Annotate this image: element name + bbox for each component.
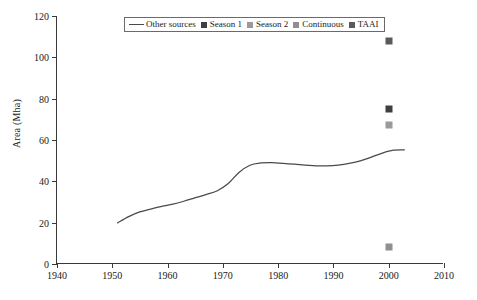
legend-entry-season-2[interactable]: Season 2 bbox=[247, 20, 288, 29]
x-tick-mark bbox=[333, 263, 334, 268]
x-tick-mark bbox=[278, 263, 279, 268]
scatter-marker-continuous bbox=[385, 244, 392, 251]
y-tick-label: 100 bbox=[34, 52, 49, 63]
legend-line-icon bbox=[129, 24, 144, 25]
line-series-other-sources bbox=[118, 150, 405, 223]
plot-area: 020406080100120 194019501960197019801990… bbox=[56, 16, 443, 264]
y-tick-label: 60 bbox=[39, 135, 49, 146]
x-tick-mark bbox=[112, 263, 113, 268]
y-tick-label: 80 bbox=[39, 93, 49, 104]
x-tick-label: 1970 bbox=[213, 270, 233, 281]
scatter-marker-taai bbox=[385, 37, 392, 44]
legend-label: Continuous bbox=[302, 20, 344, 29]
x-tick-label: 2010 bbox=[434, 270, 454, 281]
x-tick-label: 1960 bbox=[158, 270, 178, 281]
legend-label: TAAI bbox=[358, 20, 379, 29]
x-tick-mark bbox=[57, 263, 58, 268]
x-tick-label: 1940 bbox=[47, 270, 67, 281]
y-tick-label: 0 bbox=[44, 259, 49, 270]
x-tick-mark bbox=[223, 263, 224, 268]
scatter-marker-season-1 bbox=[385, 106, 392, 113]
x-tick-label: 1980 bbox=[268, 270, 288, 281]
x-tick-label: 2000 bbox=[379, 270, 399, 281]
y-tick-label: 20 bbox=[39, 217, 49, 228]
legend-entry-continuous[interactable]: Continuous bbox=[293, 20, 344, 29]
legend-entry-taai[interactable]: TAAI bbox=[349, 20, 379, 29]
legend-square-icon bbox=[247, 22, 253, 28]
legend-square-icon bbox=[293, 22, 299, 28]
chart-legend: Other sourcesSeason 1Season 2ContinuousT… bbox=[124, 17, 385, 32]
scatter-marker-season-2 bbox=[385, 121, 392, 128]
legend-label: Season 2 bbox=[256, 20, 288, 29]
legend-square-icon bbox=[201, 22, 207, 28]
legend-label: Season 1 bbox=[210, 20, 242, 29]
legend-square-icon bbox=[349, 22, 355, 28]
x-tick-mark bbox=[389, 263, 390, 268]
x-tick-mark bbox=[444, 263, 445, 268]
legend-entry-other-sources[interactable]: Other sources bbox=[129, 20, 196, 29]
x-tick-mark bbox=[168, 263, 169, 268]
series-layer bbox=[57, 16, 443, 263]
y-tick-label: 120 bbox=[34, 11, 49, 22]
legend-label: Other sources bbox=[146, 20, 196, 29]
y-axis-label: Area (Mha) bbox=[11, 84, 22, 164]
x-tick-label: 1950 bbox=[102, 270, 122, 281]
legend-entry-season-1[interactable]: Season 1 bbox=[201, 20, 242, 29]
chart-figure: Area (Mha) 020406080100120 1940195019601… bbox=[0, 0, 477, 300]
y-tick-label: 40 bbox=[39, 176, 49, 187]
x-tick-label: 1990 bbox=[323, 270, 343, 281]
